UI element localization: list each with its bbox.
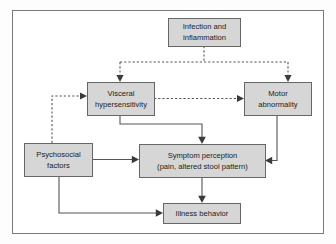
node-label-visceral-line2: hypersensitivity — [95, 100, 147, 109]
node-label-psychosocial-line2: factors — [47, 161, 70, 170]
node-label-visceral-line1: Visceral — [108, 89, 135, 98]
node-label-illness-line1: Illness behavior — [176, 209, 229, 218]
node-symptom-perception[interactable]: Symptom perception (pain, altered stool … — [140, 145, 266, 178]
node-label-psychosocial-line1: Psychosocial — [36, 150, 81, 159]
node-visceral-hypersensitivity[interactable]: Visceral hypersensitivity — [88, 83, 155, 116]
node-infection-inflammation[interactable]: Infection and inflammation — [169, 19, 241, 47]
node-label-infection-line1: Infection and — [183, 22, 227, 31]
node-psychosocial-factors[interactable]: Psychosocial factors — [25, 144, 93, 177]
node-label-symptom-line2: (pain, altered stool pattern) — [157, 162, 248, 171]
node-label-motor-line2: abnormality — [258, 100, 297, 109]
node-label-motor-line1: Motor — [268, 89, 288, 98]
diagram-container: Infection and inflammation Visceral hype… — [0, 0, 336, 244]
node-illness-behavior[interactable]: Illness behavior — [164, 204, 241, 224]
node-label-infection-line2: inflammation — [183, 33, 226, 42]
node-motor-abnormality[interactable]: Motor abnormality — [245, 83, 312, 116]
flowchart-canvas: Infection and inflammation Visceral hype… — [0, 0, 336, 244]
node-label-symptom-line1: Symptom perception — [168, 151, 238, 160]
